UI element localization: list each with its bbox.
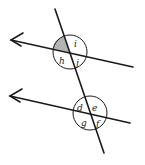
- transversal-line: [55, 9, 104, 153]
- angle-label-d: d: [77, 103, 83, 113]
- upper-arrowhead-icon: [11, 33, 23, 46]
- parallel-lines-diagram: i h j d e g f: [0, 0, 145, 165]
- lower-parallel-line: [10, 96, 130, 123]
- upper-parallel-line: [11, 40, 133, 67]
- angle-label-i: i: [74, 39, 77, 49]
- angle-label-g: g: [81, 118, 87, 128]
- angle-label-h: h: [59, 56, 65, 66]
- angle-label-e: e: [92, 103, 97, 113]
- lower-arrowhead-icon: [10, 89, 22, 102]
- angle-label-f: f: [95, 119, 101, 129]
